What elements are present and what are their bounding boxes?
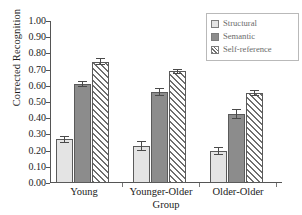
- y-tick-label: 0.00: [16, 178, 46, 188]
- bar: [133, 146, 150, 183]
- error-bar-cap-top: [214, 147, 223, 148]
- error-bar-cap-top: [250, 90, 259, 91]
- error-bar-cap-top: [173, 69, 182, 70]
- error-bar: [133, 141, 150, 151]
- bar: [169, 71, 186, 183]
- y-tick-label: 0.50: [16, 97, 46, 107]
- error-bar: [246, 90, 263, 96]
- y-tick-label: 0.90: [16, 32, 46, 42]
- bar: [56, 139, 73, 183]
- y-tick-label: 0.40: [16, 113, 46, 123]
- x-tick-label: Older-Older: [212, 186, 263, 197]
- y-tick-label: 1.00: [16, 16, 46, 26]
- legend-item[interactable]: Semantic: [211, 30, 295, 43]
- bar: [151, 92, 168, 183]
- y-tick-mark: [46, 183, 50, 184]
- error-bar-cap-top: [78, 81, 87, 82]
- legend-swatch-icon: [211, 46, 219, 54]
- bar: [92, 62, 109, 184]
- y-axis-tick-labels: 1.000.900.800.700.600.500.400.300.200.10…: [16, 16, 46, 186]
- x-tick-label: Young: [70, 186, 98, 197]
- error-bar: [169, 69, 186, 74]
- y-tick-label: 0.20: [16, 146, 46, 156]
- legend-swatch-icon: [211, 20, 219, 28]
- error-bar: [228, 109, 245, 119]
- error-bar-cap-bottom: [250, 95, 259, 96]
- bar-group: [133, 21, 189, 183]
- error-bar-cap-bottom: [78, 86, 87, 87]
- y-tick-label: 0.60: [16, 81, 46, 91]
- y-tick-label: 0.70: [16, 65, 46, 75]
- error-bar-cap-top: [155, 88, 164, 89]
- bar-group: [56, 21, 112, 183]
- legend-item[interactable]: Self-reference: [211, 43, 295, 56]
- error-bar-cap-bottom: [137, 150, 146, 151]
- bar: [246, 93, 263, 183]
- legend-item[interactable]: Structural: [211, 17, 295, 30]
- error-bar-cap-bottom: [155, 95, 164, 96]
- error-bar: [92, 58, 109, 64]
- error-bar-cap-bottom: [173, 73, 182, 74]
- bar-chart: Corrected Recognition 1.000.900.800.700.…: [0, 0, 302, 215]
- error-bar-cap-bottom: [214, 154, 223, 155]
- y-tick-label: 0.80: [16, 48, 46, 58]
- error-bar-cap-top: [232, 109, 241, 110]
- bar: [210, 151, 227, 183]
- x-tick-label: Younger-Older: [130, 186, 193, 197]
- chart-legend: StructuralSemanticSelf-reference: [206, 13, 299, 61]
- legend-item-label: Self-reference: [223, 45, 272, 54]
- error-bar-cap-top: [137, 141, 146, 142]
- error-bar: [74, 81, 91, 87]
- y-tick-label: 0.10: [16, 162, 46, 172]
- y-tick-label: 0.30: [16, 129, 46, 139]
- legend-item-label: Semantic: [223, 32, 255, 41]
- error-bar: [210, 147, 227, 155]
- x-axis-title: Group: [50, 199, 282, 210]
- error-bar-cap-top: [96, 58, 105, 59]
- legend-item-label: Structural: [223, 19, 257, 28]
- error-bar-cap-bottom: [96, 64, 105, 65]
- bar: [228, 114, 245, 183]
- legend-swatch-icon: [211, 33, 219, 41]
- bar: [74, 84, 91, 183]
- error-bar-cap-bottom: [60, 142, 69, 143]
- error-bar-cap-bottom: [232, 118, 241, 119]
- error-bar: [56, 136, 73, 142]
- error-bar-cap-top: [60, 136, 69, 137]
- error-bar: [151, 88, 168, 96]
